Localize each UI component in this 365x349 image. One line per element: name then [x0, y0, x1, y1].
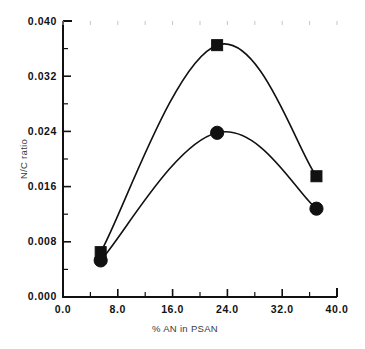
- y-axis-title: N/C ratio: [18, 139, 29, 179]
- x-axis-title: % AN in PSAN: [152, 323, 218, 334]
- y-tick-label-4: 0.032: [28, 70, 57, 82]
- y-tick-label-3: 0.024: [28, 125, 57, 137]
- data-point-circle-0: [94, 254, 107, 267]
- data-point-square-2: [311, 171, 322, 182]
- data-point-square-1: [212, 40, 223, 51]
- y-tick-label-5: 0.040: [28, 15, 57, 27]
- x-tick-label-2: 16.0: [161, 303, 184, 315]
- x-tick-label-0: 0.0: [55, 303, 71, 315]
- series-circle: [94, 126, 323, 267]
- chart-figure: 0.040 0.032 0.024 0.016 0.008 0.000 0.0 …: [0, 0, 365, 349]
- series-line-circle: [101, 132, 317, 261]
- data-point-circle-2: [310, 202, 323, 215]
- chart-plot-area: 0.040 0.032 0.024 0.016 0.008 0.000 0.0 …: [0, 0, 365, 349]
- x-tick-label-4: 32.0: [271, 303, 294, 315]
- y-tick-label-1: 0.008: [28, 235, 57, 247]
- x-tick-label-1: 8.0: [110, 303, 126, 315]
- x-tick-label-3: 24.0: [216, 303, 239, 315]
- y-tick-label-0: 0.000: [28, 290, 57, 302]
- x-tick-label-5: 40.0: [326, 303, 349, 315]
- series-layer: [94, 40, 323, 267]
- data-point-circle-1: [211, 126, 224, 139]
- series-line-square: [101, 44, 317, 252]
- top-border-ticks: [63, 21, 337, 25]
- y-tick-label-2: 0.016: [28, 180, 57, 192]
- series-square: [95, 40, 322, 258]
